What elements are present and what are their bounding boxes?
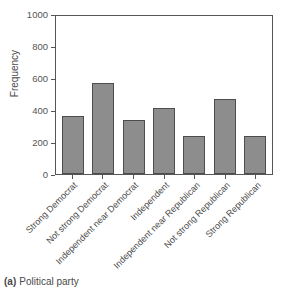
bar-slot: [119, 16, 149, 174]
figure-panel: Frequency 02004006008001000 Strong Democ…: [0, 0, 285, 295]
bar: [244, 136, 266, 174]
bar: [183, 136, 205, 174]
bar: [153, 108, 175, 174]
bar: [123, 120, 145, 174]
bar-series: [56, 16, 272, 174]
y-axis-tick-label: 800: [32, 42, 48, 52]
x-axis-tick-mark: [194, 175, 195, 179]
x-axis-tick-mark: [102, 175, 103, 179]
y-axis-tick-label: 400: [32, 106, 48, 116]
bar-slot: [209, 16, 239, 174]
x-axis-tick-mark: [164, 175, 165, 179]
bar-slot: [179, 16, 209, 174]
plot-area: [55, 15, 273, 175]
y-axis-tick-label: 600: [32, 74, 48, 84]
bar: [62, 116, 84, 174]
y-axis: 02004006008001000: [0, 0, 55, 175]
x-axis-tick-mark: [72, 175, 73, 179]
bar-slot: [88, 16, 118, 174]
figure-caption: (a)Political party: [4, 276, 79, 287]
x-axis-labels: Strong DemocratNot strong DemocratIndepe…: [55, 180, 273, 265]
x-axis-tick-mark: [133, 175, 134, 179]
y-axis-tick-label: 0: [43, 170, 48, 180]
x-axis-tick-mark: [225, 175, 226, 179]
bar-slot: [149, 16, 179, 174]
y-axis-tick-label: 200: [32, 138, 48, 148]
bar-slot: [240, 16, 270, 174]
bar: [214, 99, 236, 174]
x-axis-tick-mark: [255, 175, 256, 179]
figure-caption-text: Political party: [19, 276, 78, 287]
bar-slot: [58, 16, 88, 174]
bar: [92, 83, 114, 174]
y-axis-tick-label: 1000: [27, 10, 48, 20]
figure-caption-tag: (a): [4, 276, 16, 287]
